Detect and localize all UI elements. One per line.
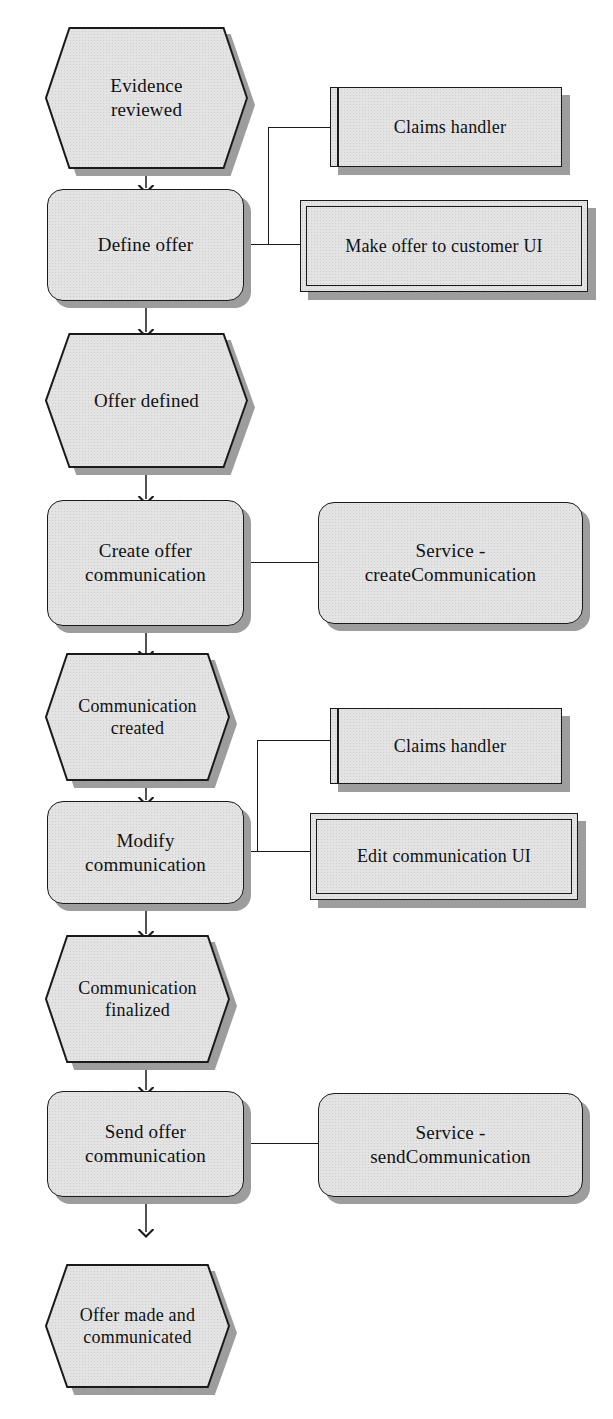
node-modify-communication[interactable]: Modify communication (47, 801, 244, 904)
node-offer-made-and-communicated[interactable]: Offer made and communicated (45, 1264, 230, 1388)
node-label: Modify communication (47, 801, 244, 904)
edge-define-offer-riser (268, 127, 269, 245)
node-claims-handler-1[interactable]: Claims handler (330, 87, 562, 167)
node-create-offer-communication[interactable]: Create offer communication (47, 500, 244, 626)
node-label: Create offer communication (47, 500, 244, 626)
flowchart-canvas: Evidence reviewed Define offer Claims ha… (0, 0, 613, 1419)
edge-send-offer-to-service (244, 1143, 318, 1144)
node-claims-handler-2[interactable]: Claims handler (330, 708, 562, 784)
node-label: Define offer (47, 189, 244, 301)
node-make-offer-ui[interactable]: Make offer to customer UI (300, 200, 588, 292)
edge-modify-comm-branch (244, 851, 316, 852)
node-label: Send offer communication (47, 1091, 244, 1197)
node-label: Communication finalized (45, 935, 230, 1063)
node-service-send-communication[interactable]: Service - sendCommunication (318, 1093, 583, 1197)
node-communication-created[interactable]: Communication created (45, 653, 230, 781)
node-label: Claims handler (330, 708, 562, 784)
node-evidence-reviewed[interactable]: Evidence reviewed (45, 27, 248, 169)
node-communication-finalized[interactable]: Communication finalized (45, 935, 230, 1063)
edge-create-offer-to-service (244, 562, 318, 563)
node-offer-defined[interactable]: Offer defined (45, 333, 248, 468)
node-label: Service - sendCommunication (318, 1093, 583, 1197)
node-label: Make offer to customer UI (300, 200, 588, 292)
node-label: Service - createCommunication (318, 502, 583, 624)
node-edit-communication-ui[interactable]: Edit communication UI (310, 813, 578, 900)
node-label: Offer defined (45, 333, 248, 468)
node-label: Communication created (45, 653, 230, 781)
node-label: Evidence reviewed (45, 27, 248, 169)
edge-define-offer-to-claims-handler (268, 127, 330, 128)
node-service-create-communication[interactable]: Service - createCommunication (318, 502, 583, 624)
node-label: Claims handler (330, 87, 562, 167)
node-label: Edit communication UI (310, 813, 578, 900)
edge-modify-comm-to-claims-handler (257, 740, 330, 741)
node-send-offer-communication[interactable]: Send offer communication (47, 1091, 244, 1197)
edge-modify-comm-riser (257, 740, 258, 852)
node-label: Offer made and communicated (45, 1264, 230, 1388)
node-define-offer[interactable]: Define offer (47, 189, 244, 301)
